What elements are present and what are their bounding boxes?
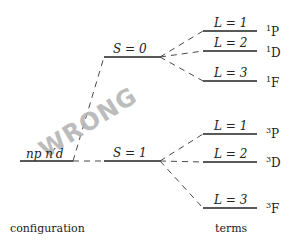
l-label: L = 2 [214, 148, 247, 160]
l-label: L = 3 [214, 194, 247, 206]
configuration-column-label: configuration [10, 223, 85, 234]
term-symbol: 3P [266, 127, 279, 140]
term-symbol: 3D [266, 156, 281, 169]
term-symbol: 3F [266, 202, 279, 215]
s0-label: S = 0 [113, 43, 147, 55]
l-label: L = 1 [214, 120, 247, 132]
terms-column-label: terms [215, 223, 247, 234]
s1-label: S = 1 [113, 147, 147, 159]
term-symbol: 1D [266, 46, 281, 59]
l-label: L = 3 [214, 67, 247, 79]
diagram-lines [0, 0, 294, 247]
l-label: L = 1 [214, 17, 247, 29]
configuration-label: np n′d [26, 148, 63, 160]
term-symbol: 1P [266, 25, 279, 38]
l-label: L = 2 [214, 37, 247, 49]
term-symbol: 1F [266, 76, 279, 89]
